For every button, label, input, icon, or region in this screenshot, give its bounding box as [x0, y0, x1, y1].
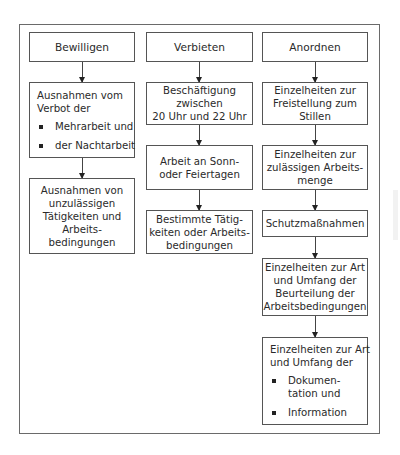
arrow-down-icon [82, 158, 83, 178]
bullet-item: Dokumen- tation und [270, 374, 347, 400]
arrow-down-icon [315, 125, 316, 145]
box-bestimmte-taetigkeiten: Bestimmte Tätig- keiten oder Arbeits- be… [146, 210, 253, 254]
bullet-list: Mehrarbeit und der Nachtarbeit [37, 120, 135, 152]
bullet-item: der Nachtarbeit [37, 139, 135, 152]
bullet-list: Dokumen- tation und Information [270, 374, 347, 419]
arrow-down-icon [199, 190, 200, 210]
bullet-item: Mehrarbeit und [37, 120, 135, 133]
page-edge-mark [393, 190, 398, 240]
box-freistellung-stillen: Einzelheiten zur Freistellung zum Stille… [262, 82, 368, 125]
arrow-down-icon [315, 62, 316, 82]
bullet-item: Information [270, 406, 347, 419]
arrow-down-icon [199, 125, 200, 145]
arrow-down-icon [199, 62, 200, 82]
header-bewilligen: Bewilligen [29, 32, 135, 62]
arrow-down-icon [315, 237, 316, 258]
box-ausnahmen-unzulaessig: Ausnahmen von unzulässigen Tätigkeiten u… [29, 178, 135, 254]
arrow-down-icon [315, 316, 316, 337]
box-sonn-feiertage: Arbeit an Sonn- oder Feiertagen [146, 145, 253, 190]
header-verbieten: Verbieten [146, 32, 253, 62]
box-ausnahmen-verbot: Ausnahmen vom Verbot der Mehrarbeit und … [29, 82, 135, 158]
arrow-down-icon [315, 190, 316, 210]
box-beschaeftigung-20-22: Beschäftigung zwischen 20 Uhr und 22 Uhr [146, 82, 253, 125]
box-beurteilung-arbeitsbedingungen: Einzelheiten zur Art und Umfang der Beur… [262, 258, 368, 316]
box-schutzmassnahmen: Schutzmaßnahmen [262, 210, 368, 237]
header-anordnen: Anordnen [262, 32, 368, 62]
arrow-down-icon [82, 62, 83, 82]
box-arbeitsmenge: Einzelheiten zur zulässigen Arbeits- men… [262, 145, 368, 190]
box-dokumentation-information: Einzelheiten zur Art und Umfang der Doku… [262, 337, 368, 425]
